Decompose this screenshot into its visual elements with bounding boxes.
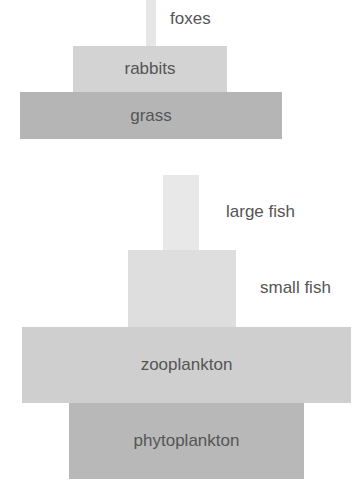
zooplankton-label: zooplankton — [141, 355, 233, 375]
grass-label: grass — [130, 106, 172, 126]
foxes-bar — [146, 0, 156, 46]
small-fish-label: small fish — [260, 278, 331, 298]
phytoplankton-bar: phytoplankton — [69, 403, 304, 479]
phytoplankton-label: phytoplankton — [134, 431, 240, 451]
large-fish-bar — [163, 175, 199, 250]
foxes-label: foxes — [170, 9, 211, 29]
large-fish-label: large fish — [226, 202, 295, 222]
grass-bar: grass — [20, 92, 282, 139]
rabbits-label: rabbits — [124, 59, 175, 79]
rabbits-bar: rabbits — [73, 46, 227, 92]
zooplankton-bar: zooplankton — [22, 327, 351, 403]
small-fish-bar — [128, 250, 236, 327]
